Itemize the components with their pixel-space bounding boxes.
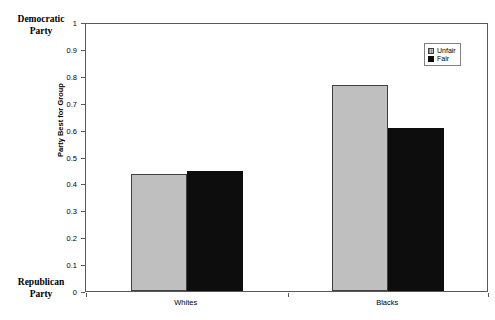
bar-blacks-unfair bbox=[332, 85, 388, 291]
x-axis-tick-mark bbox=[488, 293, 489, 297]
legend-label-fair: Fair bbox=[437, 55, 449, 62]
republican-party-line-2: Party bbox=[4, 289, 78, 301]
legend-label-unfair: Unfair bbox=[437, 47, 456, 54]
y-axis-tick-mark bbox=[81, 292, 85, 293]
x-axis-tick-mark bbox=[86, 293, 87, 297]
chart-title bbox=[0, 0, 495, 3]
y-axis-title: Party Best for Group bbox=[56, 60, 65, 180]
democratic-party-line-2: Party bbox=[4, 26, 78, 38]
axis-anchor-high-label: Democratic Party bbox=[4, 14, 78, 37]
legend-swatch-unfair-icon bbox=[428, 48, 434, 54]
x-axis-category-label: Blacks bbox=[376, 298, 398, 307]
x-axis-tick-mark bbox=[288, 293, 289, 297]
y-axis-tick-label: 0.2 bbox=[44, 234, 77, 243]
legend-swatch-fair-icon bbox=[428, 56, 434, 62]
y-axis-tick-label: 0.9 bbox=[44, 45, 77, 54]
y-axis-tick-label: 0.3 bbox=[44, 207, 77, 216]
democratic-party-line-1: Democratic bbox=[4, 14, 78, 26]
bar-whites-fair bbox=[187, 171, 243, 291]
chart-figure: Democratic Party Republican Party Party … bbox=[0, 0, 495, 320]
bar-whites-unfair bbox=[131, 174, 187, 291]
y-axis-tick-label: 0.4 bbox=[44, 180, 77, 189]
legend-item-unfair: Unfair bbox=[428, 47, 456, 54]
chart-legend: Unfair Fair bbox=[424, 43, 461, 66]
bar-blacks-fair bbox=[388, 128, 444, 291]
legend-item-fair: Fair bbox=[428, 55, 456, 62]
republican-party-line-1: Republican bbox=[4, 277, 78, 289]
axis-anchor-low-label: Republican Party bbox=[4, 277, 78, 300]
y-axis-tick-label: 0.1 bbox=[44, 261, 77, 270]
x-axis-category-label: Whites bbox=[174, 298, 197, 307]
